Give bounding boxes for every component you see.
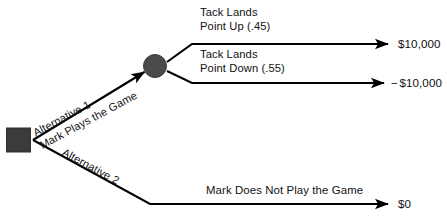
payoff-no-play: $0 <box>398 197 411 211</box>
payoff-point-down: −$10,000 <box>391 76 442 90</box>
label-outcome-point-down-line1: Tack Lands <box>200 48 285 62</box>
payoff-point-up: $10,000 <box>398 37 441 51</box>
decision-node-square <box>7 128 31 152</box>
label-outcome-point-down-line2: Point Down (.55) <box>200 62 285 76</box>
label-outcome-point-down: Tack Lands Point Down (.55) <box>200 48 285 75</box>
decision-tree-diagram: Alternative 1 Mark Plays the Game Altern… <box>0 0 447 222</box>
chance-node-circle <box>144 55 167 78</box>
label-outcome-point-up-line2: Point Up (.45) <box>200 20 270 34</box>
payoff-point-down-value: $10,000 <box>399 76 442 89</box>
label-outcome-no-play-text: Mark Does Not Play the Game <box>206 184 363 196</box>
payoff-point-down-sign: − <box>391 76 398 89</box>
label-outcome-no-play: Mark Does Not Play the Game <box>206 184 363 198</box>
payoff-no-play-value: $0 <box>398 197 411 210</box>
payoff-point-up-value: $10,000 <box>398 37 441 50</box>
label-outcome-point-up: Tack Lands Point Up (.45) <box>200 6 270 33</box>
label-outcome-point-up-line1: Tack Lands <box>200 6 270 20</box>
